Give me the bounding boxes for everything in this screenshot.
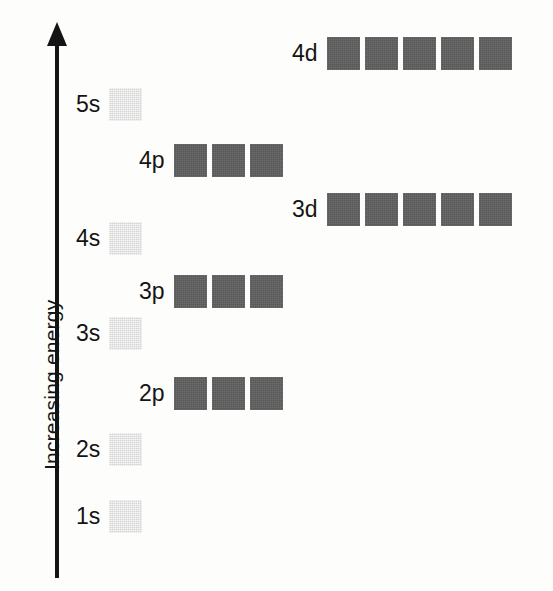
orbital-box-3d-3 — [403, 193, 436, 226]
orbital-boxes-4p — [174, 144, 283, 177]
orbital-box-4d-1 — [327, 37, 360, 70]
orbital-label-1s: 1s — [76, 505, 109, 528]
orbital-box-3s-1 — [109, 317, 142, 350]
orbital-label-2p: 2p — [139, 382, 174, 405]
energy-axis-label: Increasing energy — [40, 300, 64, 470]
orbital-box-3p-1 — [174, 275, 207, 308]
orbital-row-4p: 4p — [139, 144, 283, 177]
orbital-boxes-3d — [327, 193, 512, 226]
orbital-box-3p-2 — [212, 275, 245, 308]
orbital-label-3p: 3p — [139, 280, 174, 303]
orbital-box-4p-3 — [250, 144, 283, 177]
orbital-row-5s: 5s — [76, 88, 142, 121]
orbital-boxes-4d — [327, 37, 512, 70]
orbital-box-3p-3 — [250, 275, 283, 308]
orbital-box-4d-3 — [403, 37, 436, 70]
orbital-label-3d: 3d — [292, 198, 327, 221]
orbital-boxes-1s — [109, 500, 142, 533]
orbital-boxes-3p — [174, 275, 283, 308]
orbital-label-4d: 4d — [292, 42, 327, 65]
orbital-energy-diagram: Increasing energy 4d5s4p3d4s3p3s2p2s1s — [0, 0, 553, 591]
orbital-boxes-5s — [109, 88, 142, 121]
orbital-box-3d-1 — [327, 193, 360, 226]
orbital-box-4p-1 — [174, 144, 207, 177]
orbital-box-3d-5 — [479, 193, 512, 226]
orbital-row-3p: 3p — [139, 275, 283, 308]
energy-axis-arrowhead-icon — [47, 22, 67, 46]
orbital-boxes-3s — [109, 317, 142, 350]
orbital-boxes-4s — [109, 222, 142, 255]
orbital-row-1s: 1s — [76, 500, 142, 533]
orbital-label-3s: 3s — [76, 322, 109, 345]
orbital-box-2p-3 — [250, 377, 283, 410]
orbital-box-4p-2 — [212, 144, 245, 177]
orbital-box-4d-2 — [365, 37, 398, 70]
orbital-box-4d-5 — [479, 37, 512, 70]
orbital-box-2p-1 — [174, 377, 207, 410]
orbital-row-2s: 2s — [76, 433, 142, 466]
orbital-box-3d-2 — [365, 193, 398, 226]
orbital-box-5s-1 — [109, 88, 142, 121]
orbital-label-2s: 2s — [76, 438, 109, 461]
orbital-box-2p-2 — [212, 377, 245, 410]
orbital-label-4p: 4p — [139, 149, 174, 172]
orbital-row-4s: 4s — [76, 222, 142, 255]
orbital-label-4s: 4s — [76, 227, 109, 250]
orbital-box-1s-1 — [109, 500, 142, 533]
orbital-row-2p: 2p — [139, 377, 283, 410]
orbital-box-4d-4 — [441, 37, 474, 70]
orbital-row-4d: 4d — [292, 37, 512, 70]
orbital-row-3s: 3s — [76, 317, 142, 350]
orbital-boxes-2s — [109, 433, 142, 466]
orbital-label-5s: 5s — [76, 93, 109, 116]
orbital-row-3d: 3d — [292, 193, 512, 226]
orbital-box-2s-1 — [109, 433, 142, 466]
orbital-box-3d-4 — [441, 193, 474, 226]
orbital-boxes-2p — [174, 377, 283, 410]
orbital-box-4s-1 — [109, 222, 142, 255]
